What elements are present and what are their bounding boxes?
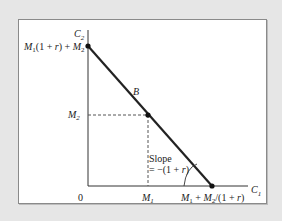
slope-label: Slope: [149, 153, 172, 164]
origin-label: 0: [78, 192, 83, 203]
x-axis-label: C1: [251, 184, 261, 198]
point-b-label: B: [133, 86, 139, 97]
slope-value: = −(1 + r): [149, 164, 189, 176]
y-axis-label: C2: [74, 28, 85, 42]
y-intercept-point: [85, 43, 90, 48]
x-intercept-point: [209, 183, 214, 188]
m2-label: M2: [67, 109, 80, 122]
x-intercept-label: M1 + M2/(1 + r): [180, 192, 244, 205]
budget-line-diagram: C2 C1 0 M1(1 + r) + M2 M2 M1 M1 + M2/(1 …: [0, 0, 282, 221]
m1-label: M1: [141, 192, 154, 205]
endowment-point: [145, 112, 150, 117]
y-intercept-label: M1(1 + r) + M2: [23, 41, 85, 54]
diagram-stage: C2 C1 0 M1(1 + r) + M2 M2 M1 M1 + M2/(1 …: [0, 0, 282, 221]
